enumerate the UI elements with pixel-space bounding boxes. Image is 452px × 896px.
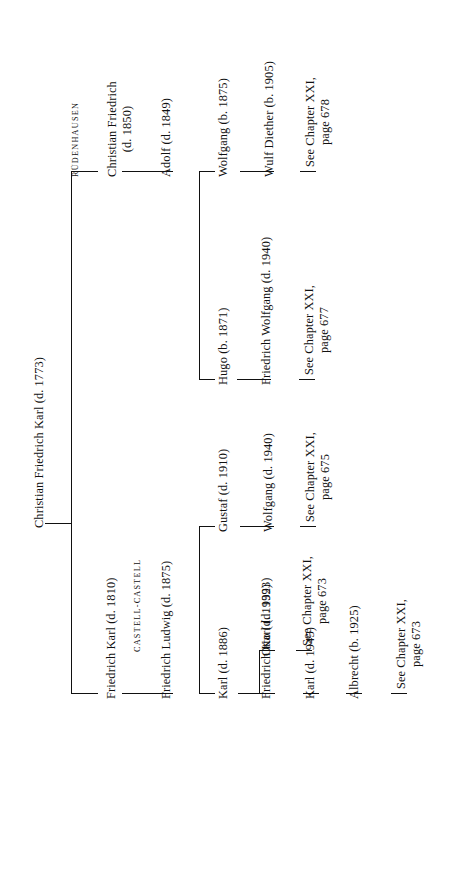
reference-678-line2: page 678 — [318, 67, 333, 177]
node-albrecht-1925: Albrecht (b. 1925) — [347, 605, 362, 699]
connector-root-spine — [71, 171, 72, 694]
reference-677-line1: See Chapter XXI, — [302, 275, 317, 385]
reference-675-line1: See Chapter XXI, — [303, 422, 318, 532]
heading-castell-castell: CASTELL-CASTELL — [133, 559, 143, 652]
node-christian-friedrich-1850-date: (d. 1850) — [120, 81, 135, 177]
connector-fl-spine — [199, 526, 200, 694]
node-karl-1945: Karl (d. 1945) — [303, 627, 318, 699]
node-adolf-1849: Adolf (d. 1849) — [159, 98, 174, 177]
reference-677-line2: page 677 — [317, 275, 332, 385]
reference-673-albrecht-line1: See Chapter XXI, — [394, 589, 409, 699]
reference-chapter-xxi-page-673-albrecht: See Chapter XXI, page 673 — [394, 589, 423, 699]
reference-675-line2: page 675 — [318, 422, 333, 532]
reference-chapter-xxi-page-677: See Chapter XXI, page 677 — [302, 275, 331, 385]
node-friedrich-ludwig-1875: Friedrich Ludwig (d. 1875) — [159, 561, 174, 699]
node-wulf-diether-1905: Wulf Diether (b. 1905) — [262, 61, 277, 177]
connector-adolf-spine — [199, 171, 200, 380]
connector-castell-arm — [71, 693, 98, 694]
node-hugo-1871: Hugo (b. 1871) — [216, 308, 231, 385]
node-gustaf-1910: Gustaf (d. 1910) — [216, 449, 231, 532]
node-friedrich-wolfgang-1940: Friedrich Wolfgang (d. 1940) — [259, 237, 274, 385]
node-root-christian-friedrich-karl: Christian Friedrich Karl (d. 1773) — [32, 357, 47, 528]
reference-chapter-xxi-page-678: See Chapter XXI, page 678 — [303, 67, 332, 177]
connector-adolf-to-wolfgang — [199, 171, 215, 172]
connector-karl1886-stem — [238, 693, 260, 694]
node-friedrich-karl-1923: Friedrich Karl (d. 1923) — [259, 578, 274, 699]
connector-fl-to-gustaf — [199, 526, 215, 527]
node-friedrich-karl-1810: Friedrich Karl (d. 1810) — [104, 578, 119, 699]
connector-adolf-to-hugo — [199, 379, 215, 380]
connector-root-stem — [45, 523, 72, 524]
reference-chapter-xxi-page-675: See Chapter XXI, page 675 — [303, 422, 332, 532]
heading-ruedenhausen: RÜDENHAUSEN — [71, 102, 81, 177]
node-christian-friedrich-1850-name: Christian Friedrich — [105, 81, 120, 177]
node-christian-friedrich-1850: Christian Friedrich (d. 1850) — [105, 81, 134, 177]
node-karl-1886: Karl (d. 1886) — [216, 627, 231, 699]
connector-fl-to-karl1886 — [199, 693, 215, 694]
node-wolfgang-1940: Wolfgang (d. 1940) — [261, 433, 276, 532]
node-wolfgang-1875: Wolfgang (b. 1875) — [216, 78, 231, 177]
reference-673-albrecht-line2: page 673 — [409, 589, 424, 699]
genealogy-chart: Christian Friedrich Karl (d. 1773) RÜDEN… — [0, 0, 452, 896]
reference-678-line1: See Chapter XXI, — [303, 67, 318, 177]
